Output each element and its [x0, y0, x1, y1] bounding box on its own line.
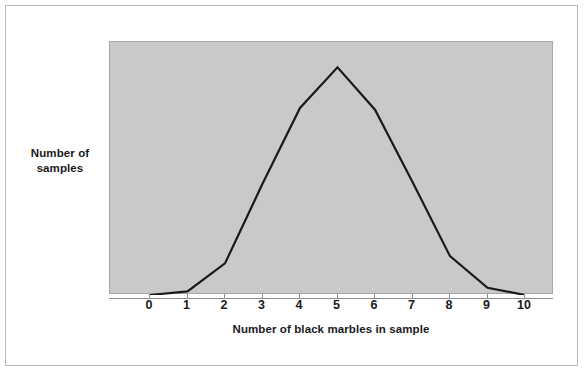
- plot-panel: [109, 41, 553, 294]
- x-tick-label-5: 5: [322, 298, 352, 312]
- x-tick-label-10: 10: [509, 298, 539, 312]
- x-tick-label-6: 6: [359, 298, 389, 312]
- x-tick-label-0: 0: [134, 298, 164, 312]
- figure-frame: Number of samples 012345678910 Number of…: [5, 5, 578, 366]
- y-axis-title: Number of samples: [16, 146, 104, 176]
- x-tick-label-2: 2: [209, 298, 239, 312]
- plot-area-svg: [110, 42, 554, 295]
- data-series-line: [150, 67, 525, 295]
- x-tick-label-7: 7: [397, 298, 427, 312]
- x-tick-label-4: 4: [284, 298, 314, 312]
- x-tick-label-1: 1: [172, 298, 202, 312]
- x-tick-label-9: 9: [472, 298, 502, 312]
- x-tick-label-3: 3: [247, 298, 277, 312]
- x-tick-label-8: 8: [434, 298, 464, 312]
- x-axis-title: Number of black marbles in sample: [109, 323, 553, 335]
